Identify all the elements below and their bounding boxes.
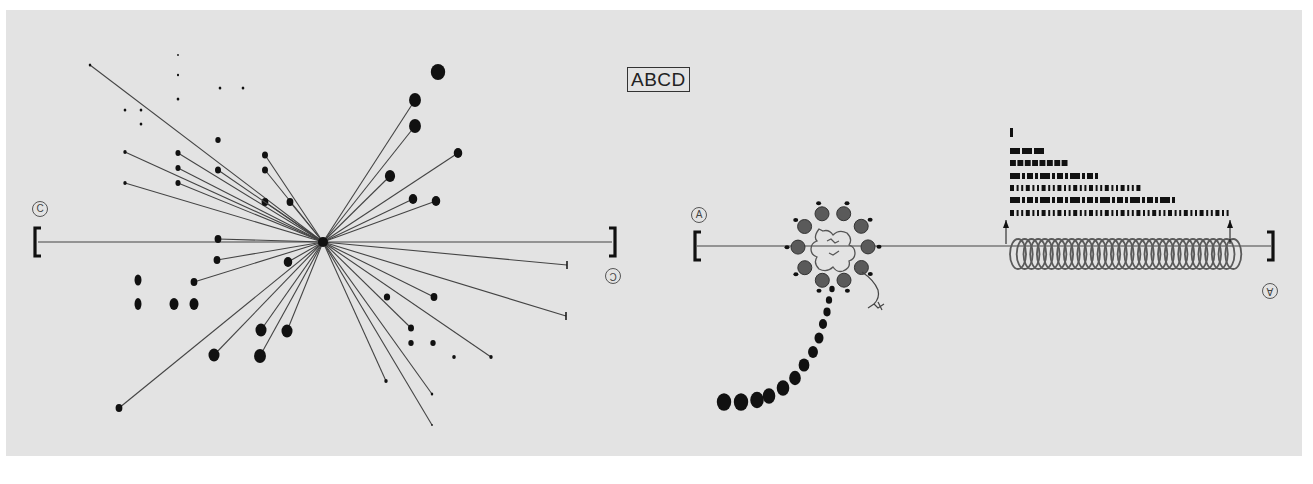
free-node: [140, 123, 143, 126]
bar-segment: [1222, 210, 1224, 216]
bar-segment: [1017, 210, 1019, 216]
rosette-sphere: [791, 240, 805, 254]
bar-segment: [1010, 197, 1020, 203]
bar-segment: [1010, 148, 1020, 154]
bar-segment: [1111, 185, 1113, 191]
tail-bead: [826, 296, 832, 304]
spoke-node: [214, 256, 221, 264]
bar-segment: [1095, 173, 1098, 179]
spoke-node: [408, 325, 414, 332]
bar-segment: [1084, 185, 1086, 191]
bar-segment: [1089, 185, 1093, 191]
sphere-cap: [868, 218, 873, 222]
bar-segment: [1022, 148, 1032, 154]
bar-segment: [1136, 185, 1140, 191]
bar-segment: [1010, 160, 1016, 166]
bar-segment: [1127, 185, 1129, 191]
spoke-node: [175, 165, 180, 171]
free-node: [135, 298, 142, 310]
bar-segment: [1125, 197, 1128, 203]
bar-segment: [1175, 210, 1177, 216]
bar-segment: [1052, 197, 1055, 203]
bar-segment: [1057, 197, 1063, 203]
rosette-sphere: [798, 261, 812, 275]
bar-segment: [1105, 210, 1109, 216]
spoke-node: [409, 119, 421, 133]
bar-segment: [1064, 185, 1066, 191]
rosette-sphere: [854, 261, 868, 275]
sphere-cap: [816, 201, 821, 205]
bar-segment: [1215, 210, 1219, 216]
spoke-node: [432, 196, 441, 206]
spoke-node: [191, 278, 198, 286]
bar-segment: [1027, 173, 1033, 179]
spoke-node: [284, 257, 293, 267]
branched-filament: [862, 272, 884, 310]
bar-segment: [1184, 210, 1188, 216]
bar-segment: [1037, 185, 1039, 191]
bar-segment: [1227, 210, 1229, 216]
bar-segment: [1032, 185, 1034, 191]
bar-segment: [1082, 173, 1085, 179]
rosette-sphere: [861, 240, 875, 254]
bar-segment: [1132, 210, 1134, 216]
bar-segment: [1211, 210, 1213, 216]
sphere-cap: [793, 218, 798, 222]
spoke-node: [175, 180, 180, 186]
tail-bead: [789, 371, 801, 385]
left-star-diagram: [35, 54, 615, 426]
tail-bead: [777, 380, 790, 395]
sphere-cap: [845, 201, 850, 205]
spoke-node: [385, 170, 395, 182]
bar-segment: [1200, 210, 1204, 216]
bar-segment: [1116, 210, 1118, 216]
bar-segment: [1065, 197, 1068, 203]
bar-segment: [1022, 173, 1025, 179]
bar-segment: [1070, 197, 1080, 203]
bar-segment: [1070, 173, 1080, 179]
tail-bead: [763, 388, 776, 403]
bar-segment: [1032, 210, 1034, 216]
sphere-cap: [868, 272, 873, 276]
bar-segment: [1048, 185, 1050, 191]
bar-segment: [1121, 210, 1125, 216]
bar-segment: [1080, 210, 1082, 216]
free-node: [430, 340, 435, 346]
spoke-line: [178, 153, 323, 242]
bar-segment: [1053, 185, 1055, 191]
sphere-cap: [817, 289, 822, 293]
spoke-node: [175, 150, 180, 156]
bar-segment: [1095, 197, 1098, 203]
bar-segment: [1047, 160, 1053, 166]
coil-arrowheads: [1003, 220, 1233, 228]
spoke-line: [261, 242, 323, 330]
right-rosette-diagram: [695, 128, 1273, 411]
spoke-node: [255, 324, 266, 337]
free-node: [452, 355, 456, 359]
spoke-line: [323, 176, 390, 242]
bar-segment: [1195, 210, 1197, 216]
free-node: [219, 87, 222, 90]
bar-segment: [1155, 197, 1158, 203]
rosette-core-outline: [811, 229, 855, 272]
bar-segment: [1080, 185, 1082, 191]
bar-segment: [1112, 197, 1115, 203]
bar-segment: [1084, 210, 1086, 216]
bar-segment: [1127, 210, 1129, 216]
bar-segment: [1096, 210, 1098, 216]
rosette-core-detail: [827, 239, 839, 255]
left-panel-start-label: C: [32, 201, 48, 217]
spoke-node: [454, 148, 463, 158]
free-node: [170, 298, 179, 310]
rosette-sphere: [854, 219, 868, 233]
bar-segment: [1132, 185, 1134, 191]
hub-node: [318, 237, 328, 247]
bar-segment: [1116, 185, 1118, 191]
spoke-node: [431, 424, 433, 426]
bar-segment: [1096, 185, 1098, 191]
tail-bead: [819, 319, 827, 329]
tail-bead: [799, 358, 810, 371]
left-panel-end-label: C: [605, 268, 621, 284]
bar-segment: [1073, 185, 1077, 191]
spoke-line: [323, 242, 432, 394]
